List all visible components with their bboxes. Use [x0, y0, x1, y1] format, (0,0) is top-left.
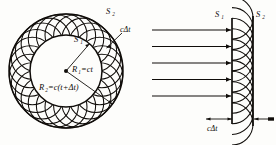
incident-ray-arrowhead	[226, 61, 231, 65]
incident-ray-arrowhead	[226, 94, 231, 98]
label-radius-r2: R 2 =c(t+Δt)	[38, 82, 79, 93]
spherical-wave-panel	[9, 14, 123, 128]
huygens-wavefront-figure: S 1 S 2 R 1 =ct R 2 =c(t+Δt) cΔt S 1 S	[0, 0, 276, 145]
label-sphere-s1-sub: 1	[80, 39, 83, 45]
label-sphere-s2-main: S	[106, 6, 111, 16]
label-plane-s2: S 2	[256, 9, 265, 20]
s2-indicator-arrowhead	[254, 118, 259, 121]
label-plane-s1-sub: 1	[221, 14, 224, 20]
label-plane-s2-sub: 2	[262, 14, 265, 20]
incident-ray-arrowhead	[226, 28, 231, 32]
label-radius-r2-value: =c(t+Δt)	[48, 82, 79, 92]
label-radius-r1-value: =ct	[81, 64, 94, 74]
label-radius-r1: R 1 =ct	[71, 64, 94, 75]
cdt-dimension-arrowhead-left	[206, 118, 211, 121]
plane-secondary-wavelets	[232, 0, 253, 145]
plane-secondary-wavelet	[232, 0, 253, 39]
label-radius-r2-main: R	[38, 82, 45, 92]
label-sphere-cdt: cΔt	[120, 25, 131, 34]
s2-indicator-tail	[268, 117, 274, 120]
figure-canvas: S 1 S 2 R 1 =ct R 2 =c(t+Δt) cΔt S 1 S	[0, 0, 276, 145]
label-plane-s2-main: S	[256, 9, 261, 19]
label-plane-s1: S 1	[215, 9, 224, 20]
incident-ray-arrowhead	[226, 77, 231, 81]
incident-ray-arrowhead	[226, 44, 231, 48]
label-sphere-s2: S 2	[106, 6, 115, 17]
label-sphere-s2-sub: 2	[112, 11, 115, 17]
label-plane-s1-main: S	[215, 9, 220, 19]
source-point	[64, 69, 68, 73]
label-plane-cdt: cΔt	[207, 124, 218, 133]
incident-rays	[152, 28, 231, 98]
label-radius-r1-main: R	[71, 64, 78, 74]
